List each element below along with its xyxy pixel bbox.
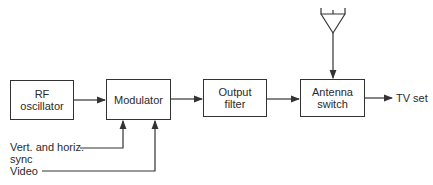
arrow-sync-to-modulator — [80, 121, 123, 148]
modulator-block: Modulator — [106, 79, 171, 120]
video-input-label: Video — [10, 165, 38, 177]
output-filter-block: Output filter — [203, 79, 267, 117]
antenna-switch-block: Antenna switch — [300, 79, 365, 117]
sync-input-label: Vert. and horiz. sync — [10, 141, 84, 165]
tv-set-output-label: TV set — [396, 92, 428, 104]
antenna-icon — [321, 8, 345, 33]
rf-oscillator-block: RF oscillator — [10, 80, 74, 120]
